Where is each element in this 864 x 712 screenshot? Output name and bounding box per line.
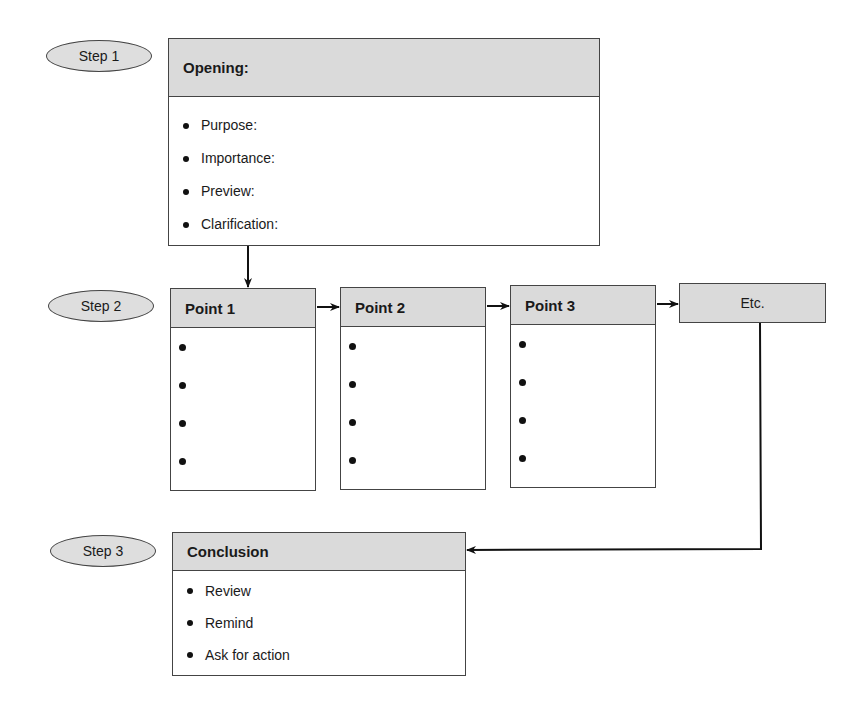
bullet [179, 344, 186, 351]
step-1-label: Step 1 [79, 48, 119, 64]
step-2-oval: Step 2 [48, 290, 154, 322]
step-3-oval: Step 3 [50, 535, 156, 567]
bullet [519, 455, 526, 462]
bullet [179, 420, 186, 427]
bullet [179, 458, 186, 465]
bullet [349, 381, 356, 388]
point-3-box: Point 3 [510, 285, 656, 488]
opening-item-preview: Preview: [169, 175, 599, 208]
point-2-header: Point 2 [341, 288, 485, 327]
bullet [519, 379, 526, 386]
bullet [179, 382, 186, 389]
point-1-box: Point 1 [170, 288, 316, 491]
conclusion-item-ask-for-action: Ask for action [173, 639, 465, 671]
bullet [519, 341, 526, 348]
step-3-label: Step 3 [83, 543, 123, 559]
point-3-header: Point 3 [511, 286, 655, 325]
conclusion-item-review: Review [173, 575, 465, 607]
opening-header: Opening: [169, 39, 599, 97]
opening-item-importance: Importance: [169, 142, 599, 175]
opening-item-purpose: Purpose: [169, 109, 599, 142]
etc-box: Etc. [679, 283, 826, 323]
conclusion-item-remind: Remind [173, 607, 465, 639]
conclusion-title: Conclusion [187, 543, 269, 560]
opening-title: Opening: [183, 59, 249, 76]
point-2-title: Point 2 [355, 299, 405, 316]
etc-label: Etc. [740, 295, 764, 311]
opening-box: Opening: Purpose: Importance: Preview: C… [168, 38, 600, 246]
point-3-title: Point 3 [525, 297, 575, 314]
step-1-oval: Step 1 [46, 40, 152, 72]
bullet [349, 343, 356, 350]
conclusion-header: Conclusion [173, 533, 465, 571]
bullet [349, 457, 356, 464]
point-1-title: Point 1 [185, 300, 235, 317]
opening-item-clarification: Clarification: [169, 208, 599, 241]
conclusion-box: Conclusion Review Remind Ask for action [172, 532, 466, 676]
bullet [519, 417, 526, 424]
step-2-label: Step 2 [81, 298, 121, 314]
point-2-box: Point 2 [340, 287, 486, 490]
bullet [349, 419, 356, 426]
point-1-header: Point 1 [171, 289, 315, 328]
